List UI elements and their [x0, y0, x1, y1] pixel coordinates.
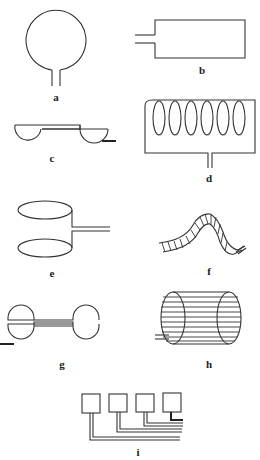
- label-d: d: [199, 172, 219, 184]
- label-c: c: [42, 152, 62, 164]
- panel-c-half-discs: [15, 125, 116, 143]
- label-h: h: [199, 358, 219, 370]
- panel-e-stacked-loops: [18, 201, 110, 257]
- panel-b-rectangular-loop: [135, 20, 245, 58]
- label-f: f: [199, 265, 219, 277]
- label-e: e: [42, 267, 62, 279]
- panel-d-solenoid: [145, 100, 255, 168]
- label-a: a: [46, 91, 66, 103]
- panel-i-phased-array: [82, 393, 183, 440]
- panel-a-circular-loop: [26, 10, 86, 86]
- label-b: b: [192, 64, 212, 76]
- panel-f-flexible-strip: [159, 214, 246, 254]
- label-i: i: [128, 446, 148, 458]
- panel-h-birdcage: [155, 292, 241, 344]
- label-g: g: [52, 358, 72, 370]
- coil-diagram: [0, 0, 260, 460]
- panel-g-dumbbell: [0, 305, 99, 344]
